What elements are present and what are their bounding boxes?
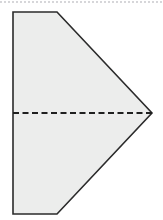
figure-canvas xyxy=(0,0,163,220)
geometry-figure xyxy=(0,0,163,220)
